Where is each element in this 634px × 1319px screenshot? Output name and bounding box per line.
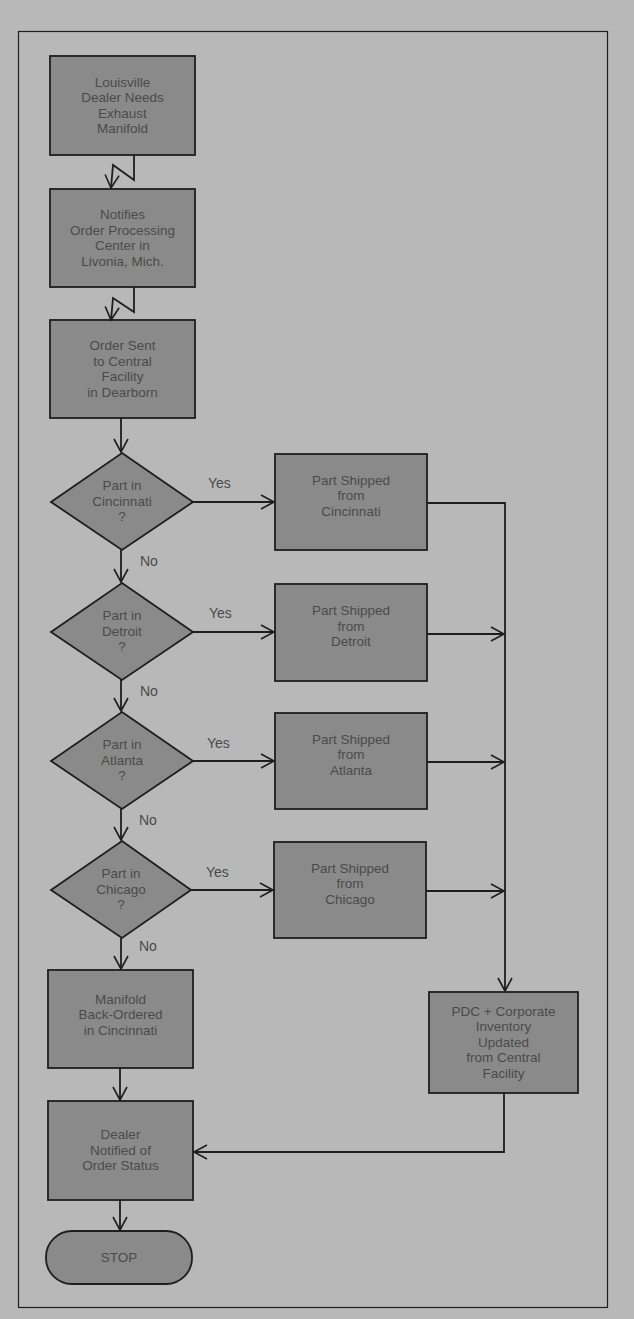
node-dealer-notified: Dealer Notified of Order Status <box>48 1101 193 1200</box>
edge-label-no: No <box>140 683 158 699</box>
node-order-sent-central: Order Sent to Central Facility in Dearbo… <box>50 320 195 418</box>
edge-label-no: No <box>139 938 157 954</box>
node-back-ordered: Manifold Back-Ordered in Cincinnati <box>48 966 193 1064</box>
decision-detroit: Part in Detroit ? <box>51 583 193 680</box>
edge-label-yes: Yes <box>207 735 230 751</box>
node-shipped-atlanta: Part Shipped from Atlanta <box>275 707 427 803</box>
edge-label-yes: Yes <box>209 605 232 621</box>
node-shipped-detroit: Part Shipped from Detroit <box>275 578 427 675</box>
stop-label: STOP <box>46 1231 192 1284</box>
decision-cincinnati: Part in Cincinnati ? <box>51 453 193 550</box>
edge-label-yes: Yes <box>206 864 229 880</box>
node-shipped-chicago: Part Shipped from Chicago <box>274 836 426 932</box>
node-shipped-cincinnati: Part Shipped from Cincinnati <box>275 448 427 544</box>
node-pdc-inventory-updated: PDC + Corporate Inventory Updated from C… <box>429 992 578 1093</box>
edge-label-yes: Yes <box>208 475 231 491</box>
node-louisville-dealer: Louisville Dealer Needs Exhaust Manifold <box>50 56 195 155</box>
edge-label-no: No <box>140 553 158 569</box>
edge-label-no: No <box>139 812 157 828</box>
decision-chicago: Part in Chicago ? <box>51 841 191 938</box>
decision-atlanta: Part in Atlanta ? <box>51 712 193 809</box>
node-notifies-order-center: Notifies Order Processing Center in Livo… <box>50 189 195 287</box>
